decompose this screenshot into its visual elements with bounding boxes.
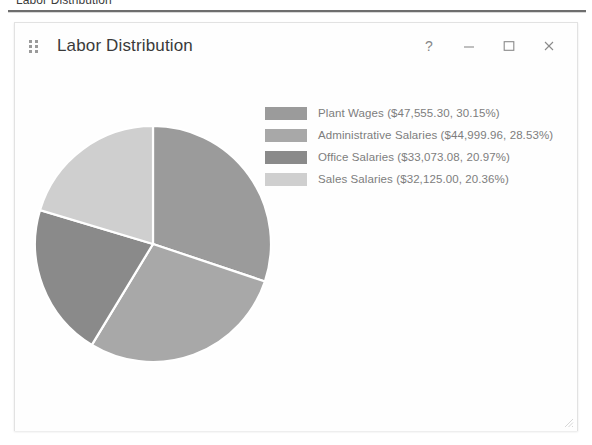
legend-swatch: [265, 129, 307, 142]
legend-label: Administrative Salaries ($44,999.96, 28.…: [318, 129, 553, 141]
legend-item[interactable]: Administrative Salaries ($44,999.96, 28.…: [265, 127, 553, 143]
legend-item[interactable]: Office Salaries ($33,073.08, 20.97%): [265, 149, 553, 165]
pie-chart: [33, 124, 273, 364]
legend-label: Sales Salaries ($32,125.00, 20.36%): [318, 173, 509, 185]
legend-swatch: [265, 107, 307, 120]
maximize-button[interactable]: [491, 31, 527, 61]
legend-label: Plant Wages ($47,555.30, 30.15%): [318, 107, 500, 119]
help-button[interactable]: ?: [411, 31, 447, 61]
chart-window: Labor Distribution ?: [14, 22, 578, 431]
page-title: Labor Distribution: [16, 0, 112, 7]
legend-item[interactable]: Sales Salaries ($32,125.00, 20.36%): [265, 171, 553, 187]
legend-item[interactable]: Plant Wages ($47,555.30, 30.15%): [265, 105, 553, 121]
chart-legend: Plant Wages ($47,555.30, 30.15%)Administ…: [265, 105, 553, 187]
resize-grip-icon[interactable]: [561, 414, 574, 427]
question-mark-icon: ?: [425, 39, 433, 53]
close-button[interactable]: [531, 31, 567, 61]
window-titlebar[interactable]: Labor Distribution ?: [15, 23, 577, 69]
legend-swatch: [265, 173, 307, 186]
close-icon: [542, 39, 556, 53]
header-divider-soft: [8, 12, 586, 13]
drag-dots-icon[interactable]: [29, 38, 41, 54]
legend-swatch: [265, 151, 307, 164]
chart-area: Plant Wages ($47,555.30, 30.15%)Administ…: [15, 69, 577, 431]
screen-root: Labor Distribution Labor Distribution ?: [0, 0, 592, 445]
minimize-button[interactable]: [451, 31, 487, 61]
pie-chart-svg[interactable]: [33, 124, 273, 364]
maximize-icon: [502, 39, 516, 53]
legend-label: Office Salaries ($33,073.08, 20.97%): [318, 151, 510, 163]
window-title: Labor Distribution: [57, 36, 193, 56]
minimize-icon: [462, 39, 476, 53]
window-controls: ?: [411, 31, 567, 61]
